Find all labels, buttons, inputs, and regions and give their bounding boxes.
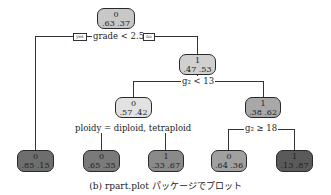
node-probs: .65 .35 — [84, 161, 119, 170]
node-class: 1 — [180, 56, 215, 65]
node-class: 1 — [149, 152, 183, 161]
node-class: 0 — [116, 99, 151, 108]
edge-rr-left-down — [228, 129, 229, 151]
node-probs: .13 .87 — [277, 161, 312, 170]
edge-rr-right-down — [294, 129, 295, 151]
node-probs: .64 .36 — [212, 161, 246, 170]
tree-node-mid: 0 .57 .42 — [115, 97, 152, 118]
edge-root-right-down — [197, 36, 198, 55]
edge-node1-left-down — [133, 81, 134, 98]
node-class: 1 — [246, 99, 280, 108]
node-probs: .38 .62 — [246, 108, 280, 117]
tree-leaf-3: 1 .33 .67 — [148, 150, 184, 172]
tree-node-right-right: 1 .38 .62 — [245, 97, 281, 118]
node-class: 0 — [212, 152, 246, 161]
tree-node-right: 1 .47 .53 — [179, 54, 216, 75]
node-probs: .63 .37 — [98, 19, 134, 28]
split-label-right-right: g₂ ≥ 18 — [244, 123, 278, 133]
edge-root-left-down — [35, 36, 36, 151]
node-probs: .85 .15 — [18, 161, 53, 170]
tree-leaf-2: 0 .65 .35 — [83, 150, 120, 172]
figure-caption: (b) rpart.plot パッケージでプロット — [0, 179, 331, 192]
node-class: 0 — [98, 10, 134, 19]
tree-leaf-1: 0 .85 .15 — [17, 150, 54, 172]
edge-node1-right-down — [263, 81, 264, 98]
node-probs: .57 .42 — [116, 108, 151, 117]
node-probs: .33 .67 — [149, 161, 183, 170]
tree-node-root: 0 .63 .37 — [97, 8, 135, 29]
split-label-mid: ploidy = diploid, tetraploid — [74, 123, 192, 133]
edge-mid-right-down — [165, 131, 166, 151]
split-label-node1: g₂ < 13 — [181, 76, 215, 86]
yes-branch-badge: yes — [73, 33, 87, 41]
tree-leaf-5: 1 .13 .87 — [276, 150, 313, 172]
node-class: 1 — [277, 152, 312, 161]
node-class: 0 — [84, 152, 119, 161]
tree-leaf-4: 0 .64 .36 — [211, 150, 247, 172]
no-branch-badge: no — [143, 33, 155, 41]
split-label-root: grade < 2.5 — [92, 31, 145, 41]
node-probs: .47 .53 — [180, 65, 215, 74]
node-class: 0 — [18, 152, 53, 161]
edge-mid-left-down — [101, 131, 102, 151]
